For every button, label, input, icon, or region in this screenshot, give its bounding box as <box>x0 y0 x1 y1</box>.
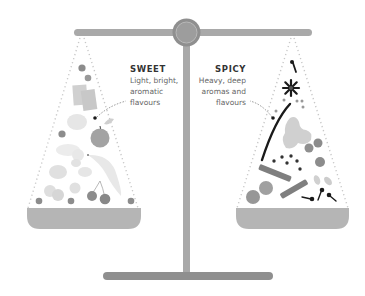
spicy-label: SPICY Heavy, deep aromas and flavours <box>198 64 246 108</box>
nutmeg-icon <box>259 181 273 195</box>
cardamom-icon <box>322 175 333 187</box>
cloves-icon <box>302 188 336 201</box>
spicy-title: SPICY <box>198 64 246 75</box>
berry-icon <box>78 64 85 71</box>
berry-icon <box>58 130 65 137</box>
sweet-title: SWEET <box>130 64 178 75</box>
leaf-icon <box>104 119 114 125</box>
ginger-icon <box>283 117 312 148</box>
berry-icon <box>68 198 75 205</box>
spicy-desc-line-1: Heavy, deep <box>198 75 246 86</box>
berry-icon <box>85 75 92 82</box>
scale-post <box>183 30 190 278</box>
berry-icon <box>36 198 43 205</box>
cinnamon-stick-icon <box>258 164 292 182</box>
star-anise-icon <box>283 80 299 96</box>
clove-icon <box>293 63 296 72</box>
citrus-icon <box>67 114 87 130</box>
balance-scale-illustration: SWEET Light, bright, aromatic flavours S… <box>0 0 365 296</box>
left-pan <box>27 38 141 229</box>
sweet-desc-line-3: flavours <box>130 97 178 108</box>
sweet-desc-line-1: Light, bright, <box>130 75 178 86</box>
wafer-icon <box>81 89 98 111</box>
cardamom-icon <box>312 174 321 185</box>
banana-icon <box>88 155 121 196</box>
spicy-desc-line-3: flavours <box>198 97 246 108</box>
cherry-icon <box>100 194 111 205</box>
right-pan-bowl <box>236 208 349 229</box>
cherry-icon <box>87 191 97 201</box>
right-pan <box>236 38 349 229</box>
dot-marker <box>93 116 97 120</box>
sweet-desc-line-2: aromatic <box>130 86 178 97</box>
apple-icon <box>91 129 110 148</box>
scale-base <box>103 272 273 280</box>
peppercorn-icon <box>272 159 275 162</box>
scale-graphic <box>0 0 365 296</box>
berry-icon <box>128 198 135 205</box>
left-pan-bowl <box>27 208 141 229</box>
cinnamon-stick-icon <box>280 179 309 199</box>
spicy-desc-line-2: aromas and <box>198 86 246 97</box>
sweet-label: SWEET Light, bright, aromatic flavours <box>130 64 178 108</box>
nutmeg-icon <box>246 190 260 204</box>
